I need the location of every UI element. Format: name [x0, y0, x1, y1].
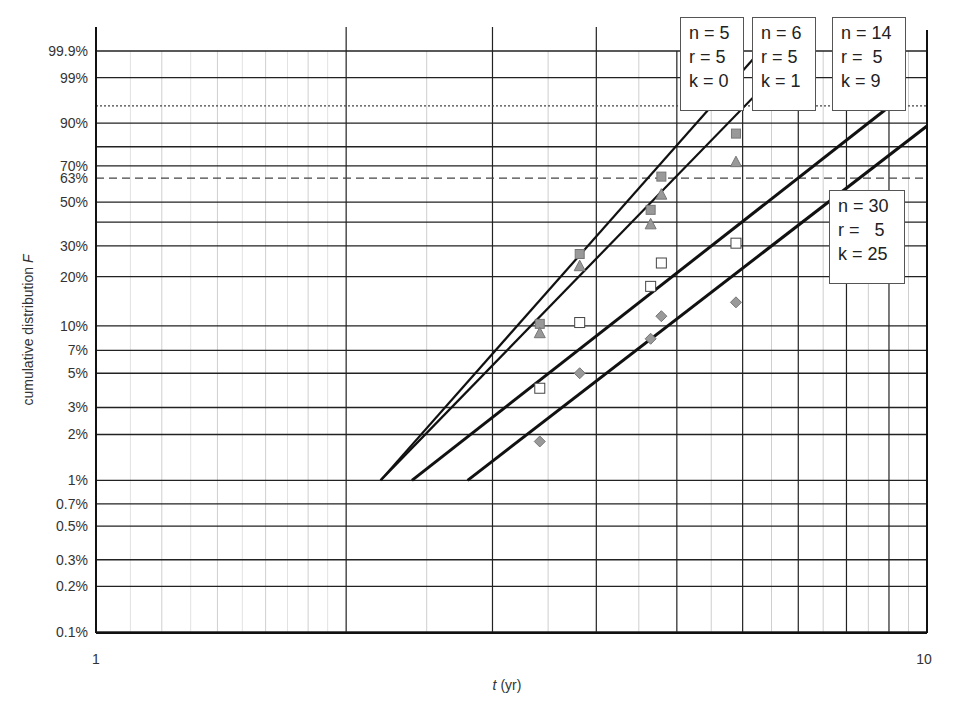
y-tick-label: 50% — [60, 194, 88, 210]
x-tick-label-1: 1 — [92, 651, 100, 667]
legend-n6-r5-k1: n = 6 r = 5 k = 1 — [752, 17, 816, 111]
minor-gridlines — [130, 51, 908, 633]
major-gridlines — [96, 27, 927, 633]
reference-lines — [96, 106, 927, 178]
y-axis-tick-labels: 99.9%99%90%70%63%50%30%20%10%7%5%3%2%1%0… — [48, 43, 88, 640]
y-tick-label: 0.1% — [56, 624, 88, 640]
y-tick-label: 3% — [68, 399, 88, 415]
square-open-marker — [646, 281, 656, 291]
fit-line — [381, 51, 761, 480]
y-tick-label: 0.5% — [56, 518, 88, 534]
x-axis-title-unit: (yr) — [497, 677, 522, 693]
square-filled-marker — [657, 172, 666, 181]
y-tick-label: 90% — [60, 115, 88, 131]
square-open-marker — [575, 318, 585, 328]
x-axis-title: t (yr) — [493, 677, 522, 693]
square-open-marker — [535, 383, 545, 393]
y-tick-label: 0.7% — [56, 496, 88, 512]
triangle-filled-marker — [645, 218, 656, 229]
y-tick-label: 63% — [60, 170, 88, 186]
diamond-filled-marker — [574, 368, 585, 379]
y-tick-label: 20% — [60, 269, 88, 285]
y-tick-label: 5% — [68, 365, 88, 381]
y-tick-label: 7% — [68, 342, 88, 358]
y-tick-label: 2% — [68, 426, 88, 442]
legend-n14-r5-k9: n = 14 r = 5 k = 9 — [832, 17, 906, 111]
y-tick-label: 0.3% — [56, 552, 88, 568]
square-filled-marker — [575, 250, 584, 259]
triangle-filled-marker — [730, 156, 741, 167]
y-axis-title-italic: F — [20, 253, 36, 263]
square-filled-marker — [731, 129, 740, 138]
diamond-filled-marker — [656, 311, 667, 322]
y-tick-label: 10% — [60, 318, 88, 334]
square-filled-marker — [646, 205, 655, 214]
legend-n5-r5-k0: n = 5 r = 5 k = 0 — [680, 17, 744, 111]
legend-n30-r5-k25: n = 30 r = 5 k = 25 — [829, 190, 905, 284]
fit-line — [381, 51, 799, 480]
x-tick-label-10: 10 — [916, 651, 932, 667]
triangle-filled-marker — [574, 260, 585, 271]
y-tick-label: 0.2% — [56, 578, 88, 594]
triangle-filled-marker — [656, 189, 667, 200]
square-open-marker — [731, 238, 741, 248]
y-axis-title: cumulative distribution F — [20, 253, 36, 405]
y-tick-label: 99% — [60, 70, 88, 86]
diamond-filled-marker — [730, 297, 741, 308]
y-tick-label: 30% — [60, 238, 88, 254]
diamond-filled-marker — [534, 436, 545, 447]
data-markers — [534, 129, 741, 447]
y-tick-label: 1% — [68, 472, 88, 488]
y-tick-label: 99.9% — [48, 43, 88, 59]
y-axis-title-main: cumulative distribution — [20, 263, 36, 405]
square-open-marker — [656, 258, 666, 268]
